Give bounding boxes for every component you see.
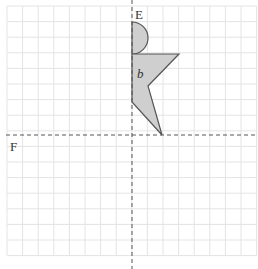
label-f: F	[10, 139, 17, 154]
reflection-diagram: E F b	[0, 0, 258, 269]
semicircle-head	[132, 22, 148, 54]
shape-label-b: b	[137, 66, 144, 81]
label-e: E	[135, 7, 143, 22]
